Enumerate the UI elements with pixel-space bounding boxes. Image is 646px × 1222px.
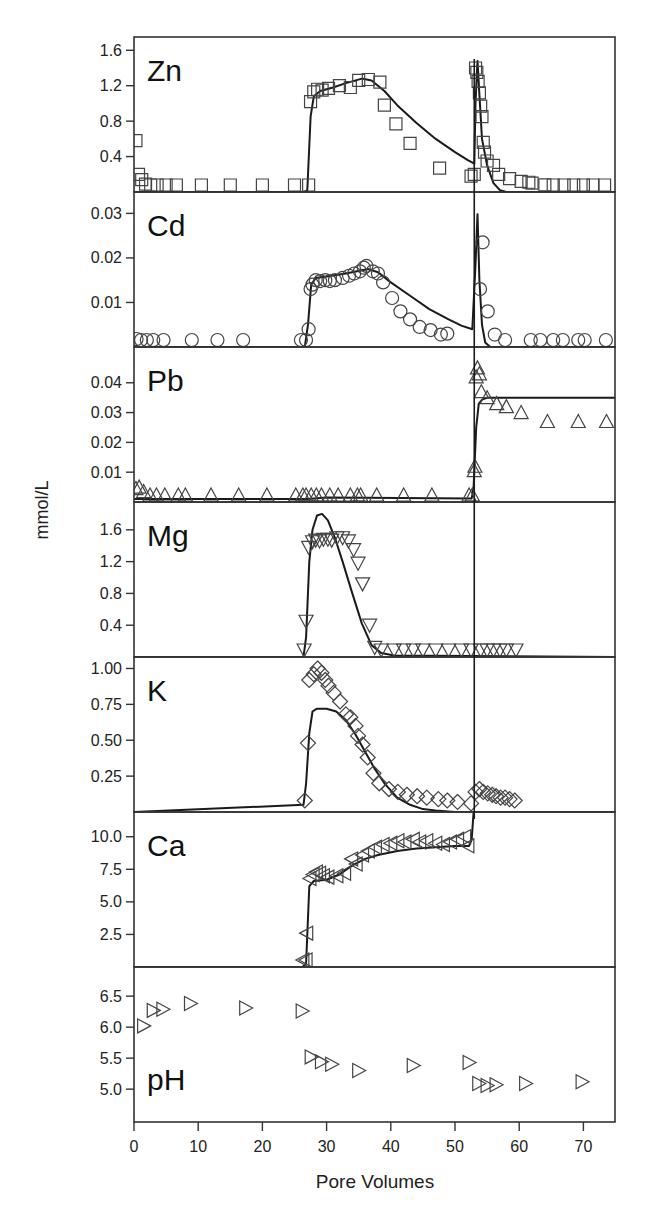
y-axis-label: mmol/L	[32, 480, 52, 539]
y-tick-label: 0.04	[91, 374, 122, 391]
data-point-square	[526, 177, 538, 189]
panel-frame	[134, 502, 615, 657]
data-point-triangle-right	[184, 997, 197, 1011]
y-tick-label: 0.03	[91, 404, 122, 421]
panel-mg: 0.40.81.21.6Mg	[100, 502, 616, 657]
y-tick-label: 0.01	[91, 464, 122, 481]
data-point-square	[539, 179, 551, 191]
data-point-triangle-up	[540, 415, 554, 428]
y-tick-label: 0.8	[100, 113, 122, 130]
data-point-square	[493, 168, 505, 180]
data-point-square	[224, 179, 236, 191]
data-point-triangle-right	[326, 1057, 339, 1071]
y-tick-label: 7.5	[100, 861, 122, 878]
x-tick-label: 20	[254, 1138, 272, 1155]
data-point-triangle-right	[353, 1064, 366, 1078]
data-point-circle	[306, 278, 319, 291]
data-point-triangle-right	[473, 1077, 486, 1091]
x-tick-label: 0	[130, 1138, 139, 1155]
data-point-triangle-right	[138, 1019, 151, 1033]
panel-cd: 0.010.020.03Cd	[91, 192, 616, 347]
y-tick-label: 0.01	[91, 294, 122, 311]
panel-label: K	[147, 674, 167, 707]
observed-points	[297, 532, 523, 657]
data-point-circle	[211, 334, 224, 347]
x-tick-label: 50	[446, 1138, 464, 1155]
data-point-triangle-right	[240, 1001, 253, 1015]
data-point-circle	[488, 328, 501, 341]
data-point-triangle-up	[397, 488, 411, 501]
panel-frame	[134, 812, 615, 967]
panel-ph: 5.05.56.06.5pH	[100, 967, 615, 1122]
panel-label: Ca	[147, 829, 186, 862]
observed-points	[297, 661, 522, 811]
panel-label: Mg	[147, 519, 189, 552]
y-tick-label: 2.5	[100, 926, 122, 943]
y-tick-label: 10.0	[91, 828, 122, 845]
observed-points	[130, 236, 612, 347]
data-point-square	[599, 179, 611, 191]
data-point-triangle-right	[463, 1055, 476, 1069]
observed-points	[296, 830, 474, 967]
data-point-circle	[481, 305, 494, 318]
data-point-diamond	[302, 672, 317, 687]
y-tick-label: 6.5	[100, 988, 122, 1005]
observed-points	[129, 361, 614, 501]
y-tick-label: 0.03	[91, 205, 122, 222]
data-point-square	[195, 179, 207, 191]
data-point-triangle-down	[347, 544, 361, 557]
x-axis: 010203040506070	[130, 1122, 593, 1155]
model-curve	[134, 514, 616, 657]
x-tick-label: 10	[189, 1138, 207, 1155]
y-tick-label: 0.02	[91, 434, 122, 451]
data-point-circle	[237, 334, 250, 347]
y-tick-label: 1.2	[100, 77, 122, 94]
y-tick-label: 1.2	[100, 553, 122, 570]
data-point-square	[130, 135, 142, 147]
panel-label: Zn	[147, 54, 182, 87]
y-tick-label: 1.00	[91, 660, 122, 677]
data-point-triangle-up	[514, 406, 528, 419]
data-point-triangle-up	[571, 415, 585, 428]
data-point-square	[515, 175, 527, 187]
panel-frame	[134, 657, 615, 812]
data-point-triangle-up	[600, 415, 614, 428]
panel-pb: 0.010.020.030.04Pb	[91, 347, 616, 502]
y-tick-label: 0.25	[91, 768, 122, 785]
panels-group: 0.40.81.21.6Zn0.010.020.03Cd0.010.020.03…	[91, 37, 616, 1122]
data-point-circle	[499, 334, 512, 347]
data-point-square	[547, 179, 559, 191]
model-curve	[134, 214, 616, 347]
data-point-triangle-up	[370, 488, 384, 501]
x-tick-label: 30	[318, 1138, 336, 1155]
panel-ca: 2.55.07.510.0Ca	[91, 812, 615, 967]
panel-frame	[134, 37, 615, 192]
data-point-circle	[556, 334, 569, 347]
model-curve	[134, 709, 616, 812]
panel-zn: 0.40.81.21.6Zn	[100, 37, 616, 192]
data-point-triangle-right	[576, 1075, 589, 1089]
data-point-triangle-down	[356, 578, 370, 591]
data-point-triangle-right	[305, 1050, 318, 1064]
y-tick-label: 1.6	[100, 42, 122, 59]
data-point-circle	[185, 334, 198, 347]
data-point-circle	[599, 334, 612, 347]
x-tick-label: 60	[510, 1138, 528, 1155]
y-tick-label: 5.0	[100, 893, 122, 910]
x-tick-label: 70	[575, 1138, 593, 1155]
panel-label: Pb	[147, 364, 184, 397]
data-point-circle	[157, 334, 170, 347]
y-tick-label: 5.5	[100, 1050, 122, 1067]
x-axis-label: Pore Volumes	[316, 1171, 434, 1192]
data-point-triangle-down	[509, 644, 523, 657]
data-point-square	[404, 137, 416, 149]
data-point-circle	[135, 334, 148, 347]
y-tick-label: 6.0	[100, 1019, 122, 1036]
y-tick-label: 0.8	[100, 585, 122, 602]
x-tick-label: 40	[382, 1138, 400, 1155]
model-curve	[134, 398, 616, 499]
data-point-triangle-right	[296, 1004, 309, 1018]
data-point-square	[523, 176, 535, 188]
y-tick-label: 0.50	[91, 732, 122, 749]
figure: 0.40.81.21.6Zn0.010.020.03Cd0.010.020.03…	[0, 0, 646, 1222]
